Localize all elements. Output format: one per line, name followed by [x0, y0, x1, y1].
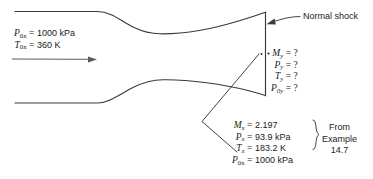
- inlet-t0x-value: 360 K: [37, 40, 75, 52]
- upstream-row-0-symbol: Mx: [232, 120, 245, 132]
- inlet-p0x-symbol: P0x: [14, 28, 27, 40]
- downstream-row-3-symbol: P0y: [271, 83, 283, 95]
- normal-shock-label: Normal shock: [303, 11, 358, 21]
- downstream-unknowns-block: My = ? Py = ? Ty = ? P0y = ?: [271, 48, 298, 94]
- downstream-row-2-symbol: Ty: [271, 71, 283, 83]
- downstream-row-1-value: ?: [294, 60, 298, 72]
- nozzle-shock-figure: P0x = 1000 kPa T0x = 360 K Normal shock …: [0, 0, 373, 179]
- upstream-row-1-equals: =: [247, 132, 252, 144]
- inlet-p0x-value: 1000 kPa: [37, 28, 75, 40]
- upstream-row-2-equals: =: [247, 143, 252, 155]
- upstream-values-block: Mx = 2.197 Px = 93.9 kPa Tx = 183.2 K P0…: [232, 120, 293, 166]
- upstream-row-3-value: 1000 kPa: [255, 155, 293, 167]
- upstream-row-1-value: 93.9 kPa: [255, 132, 293, 144]
- upstream-row-0-value: 2.197: [255, 120, 293, 132]
- upstream-row-2-value: 183.2 K: [255, 143, 293, 155]
- source-line-1: From: [322, 122, 357, 134]
- downstream-row-0-equals: =: [286, 48, 291, 60]
- downstream-row-2-value: ?: [294, 71, 298, 83]
- upstream-row-0-equals: =: [247, 120, 252, 132]
- source-line-3: 14.7: [322, 145, 357, 157]
- inlet-t0x-symbol: T0x: [14, 40, 27, 52]
- upstream-row-1-symbol: Px: [232, 132, 245, 144]
- upstream-row-2-symbol: Tx: [232, 143, 245, 155]
- flow-direction-arrow: [12, 56, 97, 62]
- downstream-row-0-symbol: My: [271, 48, 283, 60]
- normal-shock-leader: [267, 17, 301, 25]
- downstream-point-marker: [267, 52, 269, 54]
- source-brace: [313, 120, 319, 150]
- downstream-row-1-symbol: Py: [271, 60, 283, 72]
- upstream-row-3-equals: =: [247, 155, 252, 167]
- downstream-row-3-equals: =: [286, 83, 291, 95]
- figure-linework: [0, 0, 373, 179]
- downstream-row-2-equals: =: [286, 71, 291, 83]
- upstream-row-3-symbol: P0x: [232, 155, 245, 167]
- downstream-row-0-value: ?: [294, 48, 298, 60]
- inlet-conditions-block: P0x = 1000 kPa T0x = 360 K: [14, 28, 75, 51]
- inlet-t0x-equals: =: [29, 40, 34, 52]
- inlet-p0x-equals: =: [29, 28, 34, 40]
- source-reference-note: From Example 14.7: [322, 122, 357, 157]
- upstream-point-marker: [261, 53, 263, 55]
- downstream-row-1-equals: =: [286, 60, 291, 72]
- source-line-2: Example: [322, 134, 357, 146]
- downstream-row-3-value: ?: [294, 83, 298, 95]
